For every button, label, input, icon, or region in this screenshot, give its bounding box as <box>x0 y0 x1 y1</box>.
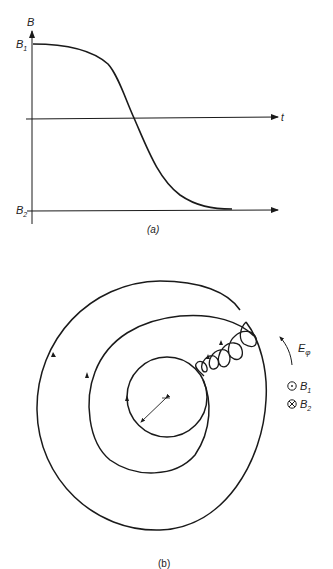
direction-arrow-middle <box>85 372 89 378</box>
b2-label: B2 <box>16 204 27 218</box>
outer-orbit <box>37 281 266 530</box>
b1-label: B1 <box>16 38 27 52</box>
b-of-t-curve <box>33 44 232 209</box>
x-axis-label: t <box>281 112 285 123</box>
e-phi-label: Eφ <box>298 342 311 357</box>
direction-arrow-loop <box>219 340 223 345</box>
direction-arrow-inner <box>125 395 129 401</box>
legend-b1-label: B1 <box>300 380 311 394</box>
e-phi-arrow <box>280 337 292 365</box>
caption-b: (b) <box>158 558 170 569</box>
radius-arrow <box>141 398 166 422</box>
middle-orbit <box>89 315 254 473</box>
direction-arrow-outer <box>51 352 56 357</box>
y-axis-label: B <box>27 16 34 28</box>
t-axis <box>26 117 278 119</box>
panel-a: B t B1 B2 (a) <box>16 16 285 235</box>
legend-b2-label: B2 <box>300 398 311 412</box>
panel-b <box>37 281 296 530</box>
inner-orbit <box>127 357 207 437</box>
figure-canvas: B t B1 B2 (a) Eφ <box>0 0 333 569</box>
b2-level-line <box>27 210 278 211</box>
caption-a: (a) <box>147 224 159 235</box>
